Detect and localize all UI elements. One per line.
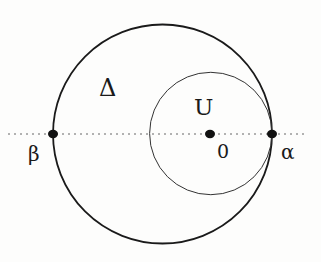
label-alpha: α — [281, 142, 295, 162]
diagram-svg — [0, 0, 321, 262]
label-beta: β — [28, 144, 40, 164]
label-u: U — [194, 96, 213, 119]
label-origin: 0 — [217, 142, 229, 161]
diagram-canvas: Δ U 0 α β — [0, 0, 321, 262]
point-beta — [48, 130, 58, 138]
big-circle-delta — [53, 25, 272, 244]
point-alpha — [267, 130, 277, 138]
label-delta: Δ — [99, 76, 116, 100]
point-origin — [205, 130, 215, 138]
